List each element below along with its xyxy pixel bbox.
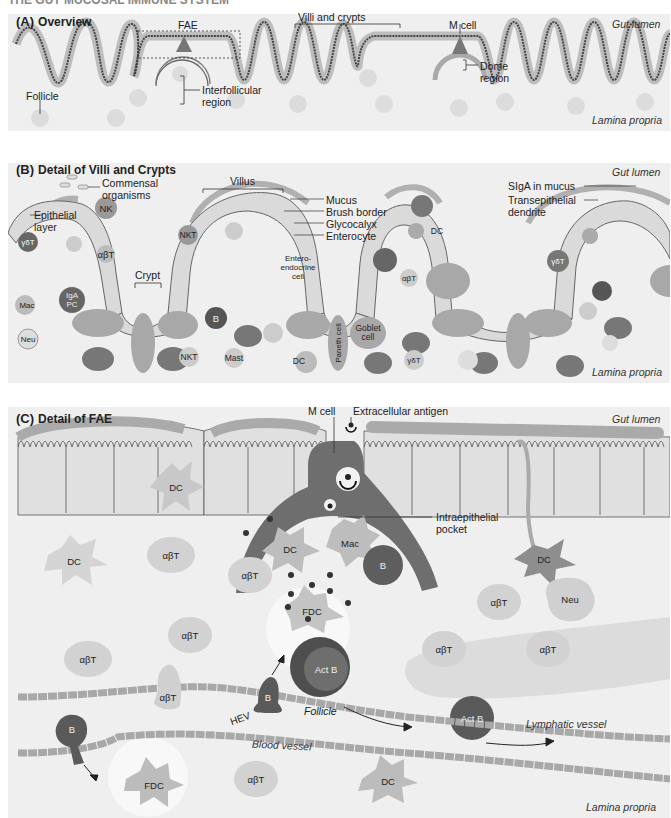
cell-dc-right: DC (537, 554, 551, 565)
cell-b-hev: B (265, 692, 271, 703)
cell-neu: Neu (561, 594, 578, 605)
label-glycocalyx: Glycocalyx (326, 218, 377, 230)
label-extracellular-antigen: Extracellular antigen (353, 405, 448, 417)
label-mucus: Mucus (326, 194, 357, 206)
label-lamina-propria: Lamina propria (592, 366, 662, 378)
cell-enteroendocrine: Entero-endocrinecell (280, 254, 315, 281)
fae-detail-drawing (8, 407, 670, 818)
cell-dc-epithelial: DC (169, 482, 183, 493)
label-villi-crypts: Villi and crypts (298, 11, 366, 23)
label-gut-lumen: Gut lumen (612, 413, 660, 425)
label-epithelial-layer: Epitheliallayer (34, 209, 77, 233)
label-m-cell: M cell (308, 405, 335, 417)
follicle-circles (31, 66, 654, 127)
cell-gd-t: γδT (21, 238, 34, 247)
cell-mac: Mac (341, 538, 359, 549)
cell-goblet: Gobletcell (355, 324, 380, 342)
cell-gd-t: γδT (407, 356, 420, 365)
villi-overview-drawing (8, 14, 670, 131)
label-interfollicular: Interfollicularregion (202, 84, 262, 108)
label-follicle: Follicle (304, 705, 337, 717)
cell-ab-t: αβT (491, 597, 508, 608)
cell-dc: DC (431, 226, 443, 236)
label-villus: Villus (230, 175, 255, 187)
cell-nk: NK (99, 203, 112, 214)
label-m-cell: M cell (449, 19, 476, 31)
cell-paneth: Paneth cell (334, 323, 343, 363)
cell-act-b: Act B (315, 664, 338, 675)
cell-fdc: FDC (302, 606, 322, 617)
label-fae: FAE (178, 19, 198, 31)
label-transepithelial-dendrite: Transepithelialdendrite (508, 194, 576, 218)
label-lamina-propria: Lamina propria (592, 114, 662, 126)
cell-ab-t: αβT (540, 644, 557, 655)
cell-dc-left: DC (67, 556, 81, 567)
cell-ab-t: αβT (436, 644, 453, 655)
panel-a-overview: (A)Overview FAE Villi and crypts M cell … (8, 14, 670, 131)
cell-dc-pocket: DC (283, 544, 297, 555)
header-fragment: THE GUT MUCOSAL IMMUNE SYSTEM (8, 0, 229, 6)
label-crypt: Crypt (135, 269, 160, 281)
panel-a-title: (A)Overview (16, 14, 91, 29)
label-gut-lumen: Gut lumen (612, 166, 660, 178)
cell-b: B (380, 560, 386, 571)
cell-ab-t-bottom: αβT (248, 774, 265, 785)
cell-b: B (213, 313, 219, 324)
cell-nkt: NKT (180, 230, 197, 240)
cell-neu: Neu (21, 335, 36, 344)
label-gut-lumen: Gut lumen (612, 18, 660, 30)
label-follicle: Follicle (26, 90, 59, 102)
label-siga-in-mucus: SIgA in mucus (508, 180, 575, 192)
cell-act-b-lymphatic: Act B (461, 713, 484, 724)
cell-mac: Mac (19, 301, 34, 310)
cell-mast: Mast (225, 353, 243, 363)
panel-c-title: (C)Detail of FAE (16, 411, 112, 426)
cell-gd-t: γδT (551, 257, 564, 266)
cell-iga-pc: IgAPC (66, 291, 78, 309)
cell-nkt: NKT (181, 352, 198, 362)
cell-ab-t: αβT (402, 274, 416, 283)
cell-dc: DC (293, 356, 305, 366)
cell-dc-bottom: DC (381, 776, 395, 787)
label-brush-border: Brush border (326, 206, 387, 218)
label-lymphatic-vessel: Lymphatic vessel (526, 718, 606, 730)
cell-ab-t: αβT (163, 550, 180, 561)
cell-ab-t: αβT (182, 630, 199, 641)
panel-b-villi-crypts: (B)Detail of Villi and Crypts Gut lumen … (8, 163, 670, 383)
cell-fdc-bottom: FDC (144, 780, 164, 791)
cell-ab-t: αβT (242, 570, 259, 581)
panel-c-fae-detail: (C)Detail of FAE M cell Extracellular an… (8, 407, 670, 818)
cell-ab-t: αβT (80, 654, 97, 665)
cell-ab-t: αβT (98, 249, 115, 260)
cell-ab-t-hev: αβT (160, 692, 177, 703)
panel-b-title: (B)Detail of Villi and Crypts (16, 162, 176, 177)
label-lamina-propria: Lamina propria (586, 801, 656, 813)
cell-b-blood: B (69, 724, 75, 735)
label-dome-region: Domeregion (480, 60, 509, 84)
label-intraepithelial-pocket: Intraepithelialpocket (436, 511, 498, 535)
label-commensal-organisms: Commensalorganisms (102, 177, 158, 201)
label-enterocyte: Enterocyte (326, 230, 376, 242)
